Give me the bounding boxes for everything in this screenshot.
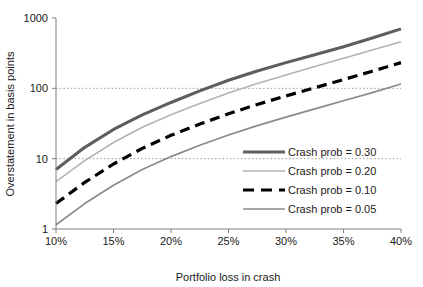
x-tick-label-4: 30% [275,235,297,247]
legend-label-0: Crash prob = 0.30 [288,146,376,158]
legend-label-2: Crash prob = 0.10 [288,184,376,196]
plot-area-background [56,18,401,229]
line-chart: 10%15%20%25%30%35%40%1000100101 Portfoli… [0,0,423,287]
x-tick-label-5: 35% [332,235,354,247]
x-tick-label-3: 25% [217,235,239,247]
x-axis-title: Portfolio loss in crash [176,271,281,283]
chart-figure: 10%15%20%25%30%35%40%1000100101 Portfoli… [0,0,423,287]
x-tick-label-2: 20% [160,235,182,247]
x-tick-label-1: 15% [102,235,124,247]
legend-label-3: Crash prob = 0.05 [288,203,376,215]
x-tick-label-0: 10% [45,235,67,247]
y-axis-title: Overstatement in basis points [4,51,16,196]
y-tick-label-0: 1000 [24,12,48,24]
y-tick-label-3: 1 [42,223,48,235]
y-tick-label-2: 10 [36,153,48,165]
legend-label-1: Crash prob = 0.20 [288,165,376,177]
y-tick-label-1: 100 [30,82,48,94]
x-tick-label-6: 40% [390,235,412,247]
